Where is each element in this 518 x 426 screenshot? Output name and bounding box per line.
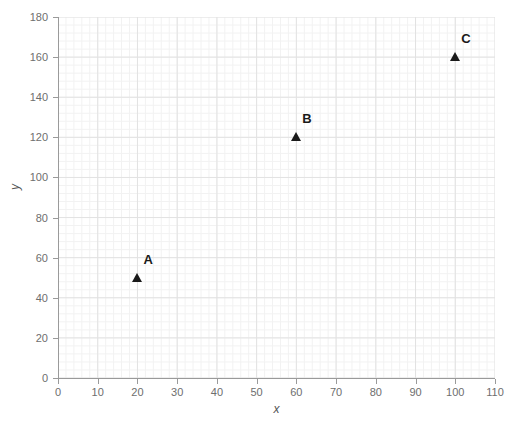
x-tick-mark [137, 379, 138, 384]
x-tick-mark [98, 379, 99, 384]
x-tick-mark [416, 379, 417, 384]
minor-gridlines [58, 17, 495, 378]
x-tick-mark [455, 379, 456, 384]
y-tick-label: 140 [30, 91, 48, 103]
y-axis-title: y [8, 184, 22, 190]
x-tick-mark [336, 379, 337, 384]
triangle-marker-icon [291, 132, 301, 141]
x-axis-title: x [0, 402, 518, 416]
x-tick-label: 70 [330, 386, 342, 398]
y-tick-label: 120 [30, 131, 48, 143]
y-axis-line [58, 17, 59, 378]
x-tick-label: 50 [251, 386, 263, 398]
x-tick-mark [217, 379, 218, 384]
major-gridlines [58, 17, 495, 378]
x-tick-label: 40 [211, 386, 223, 398]
data-point-label: B [302, 111, 311, 126]
triangle-marker-icon [450, 52, 460, 61]
y-tick-label: 0 [42, 372, 48, 384]
x-tick-mark [376, 379, 377, 384]
data-point-label: C [461, 31, 470, 46]
y-tick-mark [53, 17, 58, 18]
y-tick-label: 40 [36, 292, 48, 304]
y-tick-label: 60 [36, 252, 48, 264]
y-tick-label: 20 [36, 332, 48, 344]
y-tick-mark [53, 298, 58, 299]
x-tick-label: 80 [370, 386, 382, 398]
y-tick-label: 80 [36, 212, 48, 224]
plot-area: ABC [58, 17, 495, 378]
x-tick-label: 60 [290, 386, 302, 398]
y-tick-label: 100 [30, 171, 48, 183]
y-tick-mark [53, 218, 58, 219]
x-axis-line [58, 378, 495, 379]
y-tick-mark [53, 177, 58, 178]
x-tick-label: 0 [55, 386, 61, 398]
y-tick-mark [53, 258, 58, 259]
x-tick-label: 100 [446, 386, 464, 398]
y-tick-mark [53, 338, 58, 339]
x-tick-label: 110 [486, 386, 504, 398]
y-tick-label: 160 [30, 51, 48, 63]
y-tick-label: 180 [30, 11, 48, 23]
y-tick-mark [53, 57, 58, 58]
data-point-label: A [143, 252, 152, 267]
x-tick-mark [257, 379, 258, 384]
x-tick-mark [296, 379, 297, 384]
x-tick-mark [495, 379, 496, 384]
y-tick-mark [53, 137, 58, 138]
scatter-chart: ABC 020406080100120140160180 01020304050… [0, 0, 518, 426]
x-tick-label: 20 [131, 386, 143, 398]
x-tick-mark [58, 379, 59, 384]
x-tick-mark [177, 379, 178, 384]
x-tick-label: 30 [171, 386, 183, 398]
gridlines [58, 17, 495, 378]
x-tick-label: 10 [92, 386, 104, 398]
y-tick-mark [53, 97, 58, 98]
triangle-marker-icon [132, 273, 142, 282]
x-tick-label: 90 [409, 386, 421, 398]
